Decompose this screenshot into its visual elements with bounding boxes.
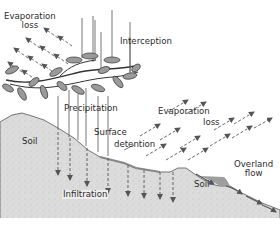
label-evaporation-loss-upper: Evaporation loss [4,12,56,30]
diagram-artwork [0,0,280,231]
label-evaporation-lower-2: loss [203,118,220,127]
label-evaporation-upper-line2: loss [4,21,56,30]
hydrologic-diagram: Evaporation loss Interception Precipitat… [0,0,280,231]
label-surface-detention-2: detention [114,140,155,149]
label-soil-right: Soil [194,180,210,189]
label-evaporation-lower-1: Evaporation [158,107,210,116]
label-interception: Interception [120,37,172,46]
label-overland-flow: Overland flow [234,160,273,178]
label-surface-detention-1: Surface [94,128,127,137]
evaporation-arrows-upper [8,28,72,80]
label-overland-flow-line2: flow [234,169,273,178]
vegetation-canopy [1,53,141,102]
label-soil-left: Soil [22,137,38,146]
label-precipitation: Precipitation [64,104,118,113]
label-infiltration: Infiltration [62,190,108,199]
